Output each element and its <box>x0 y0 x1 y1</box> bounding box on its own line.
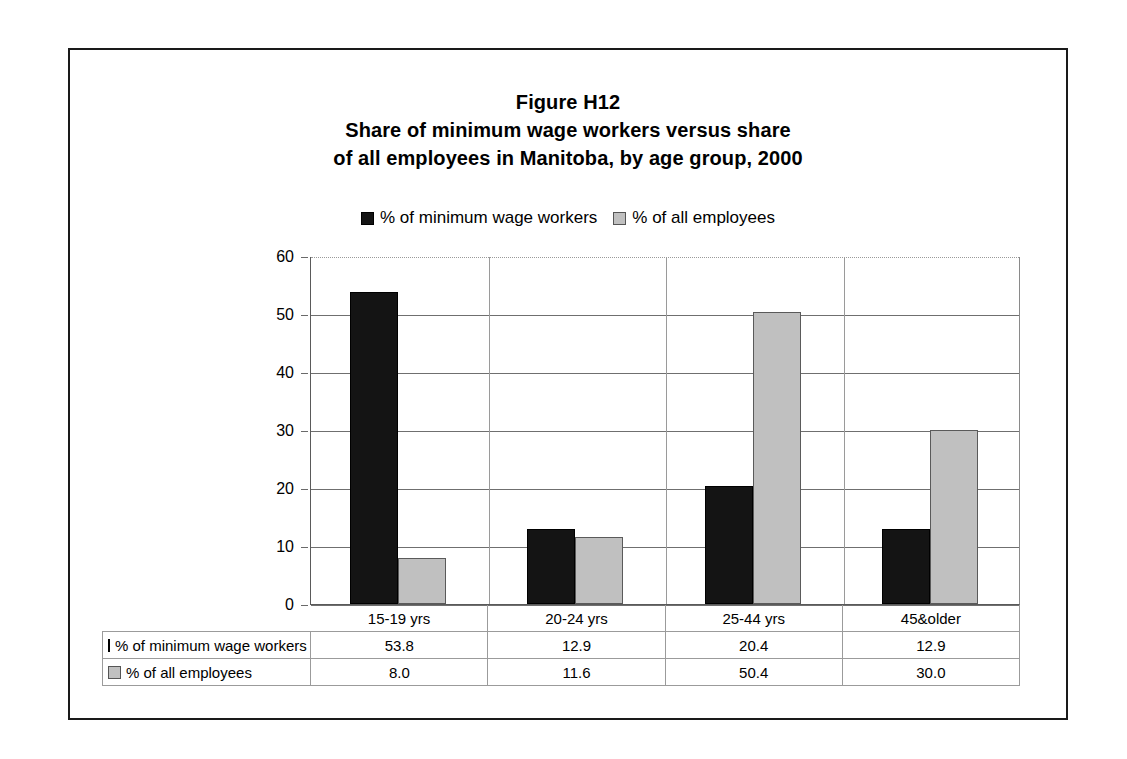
figure-frame: Figure H12 Share of minimum wage workers… <box>68 48 1068 720</box>
bar-1-1 <box>575 537 623 604</box>
legend-label-0: % of minimum wage workers <box>380 208 597 228</box>
data-table: 15-19 yrs20-24 yrs25-44 yrs45&older% of … <box>102 605 1020 686</box>
table-row-label-text: % of all employees <box>126 664 252 681</box>
table-cell-1-1: 11.6 <box>488 659 665 686</box>
legend-item-minimum-wage-workers: % of minimum wage workers <box>361 208 597 228</box>
category-header-0: 15-19 yrs <box>311 605 488 632</box>
title-line-2: Share of minimum wage workers versus sha… <box>70 116 1066 144</box>
category-header-2: 25-44 yrs <box>665 605 842 632</box>
bar-0-3 <box>882 529 930 604</box>
legend-label-1: % of all employees <box>632 208 775 228</box>
chart-legend: % of minimum wage workers % of all emplo… <box>70 208 1066 228</box>
y-tick-mark <box>301 431 308 432</box>
gray-square-icon <box>108 666 121 679</box>
legend-item-all-employees: % of all employees <box>613 208 775 228</box>
bar-1-3 <box>930 430 978 604</box>
table-cell-1-3: 30.0 <box>842 659 1019 686</box>
y-tick-label: 20 <box>276 481 294 497</box>
y-axis: 6050403020100 <box>242 249 308 597</box>
table-cell-0-3: 12.9 <box>842 632 1019 659</box>
category-header-1: 20-24 yrs <box>488 605 665 632</box>
plot-area <box>310 257 1020 605</box>
table-row-label-1: % of all employees <box>103 659 311 686</box>
table-row: % of minimum wage workers53.812.920.412.… <box>103 632 1020 659</box>
table-row-label-text: % of minimum wage workers <box>115 637 307 654</box>
table-cell-1-2: 50.4 <box>665 659 842 686</box>
bar-0-1 <box>527 529 575 604</box>
y-tick-mark <box>301 257 308 258</box>
filled-square-icon <box>361 212 374 225</box>
table-cell-1-0: 8.0 <box>311 659 488 686</box>
y-tick-label: 40 <box>276 365 294 381</box>
filled-square-icon <box>108 639 110 652</box>
y-tick-mark <box>301 315 308 316</box>
bars-layer <box>311 257 1019 604</box>
table-cell-0-1: 12.9 <box>488 632 665 659</box>
y-tick-mark <box>301 489 308 490</box>
y-tick-label: 50 <box>276 307 294 323</box>
y-tick-mark <box>301 373 308 374</box>
bar-0-2 <box>705 486 753 604</box>
figure-title: Figure H12 Share of minimum wage workers… <box>70 88 1066 172</box>
title-line-1: Figure H12 <box>70 88 1066 116</box>
table-row: % of all employees8.011.650.430.0 <box>103 659 1020 686</box>
category-header-3: 45&older <box>842 605 1019 632</box>
bar-1-2 <box>753 312 801 604</box>
y-tick-mark <box>301 547 308 548</box>
table-corner-cell <box>103 605 311 632</box>
title-line-3: of all employees in Manitoba, by age gro… <box>70 144 1066 172</box>
table-category-row: 15-19 yrs20-24 yrs25-44 yrs45&older <box>103 605 1020 632</box>
plot-wrapper: 6050403020100 <box>242 249 1024 609</box>
y-tick-label: 60 <box>276 249 294 265</box>
gray-square-icon <box>613 212 626 225</box>
bar-0-0 <box>350 292 398 604</box>
table-cell-0-2: 20.4 <box>665 632 842 659</box>
figure-page: Figure H12 Share of minimum wage workers… <box>0 0 1127 759</box>
y-tick-label: 10 <box>276 539 294 555</box>
bar-1-0 <box>398 558 446 604</box>
table-row-label-0: % of minimum wage workers <box>103 632 311 659</box>
table-cell-0-0: 53.8 <box>311 632 488 659</box>
y-tick-label: 30 <box>276 423 294 439</box>
